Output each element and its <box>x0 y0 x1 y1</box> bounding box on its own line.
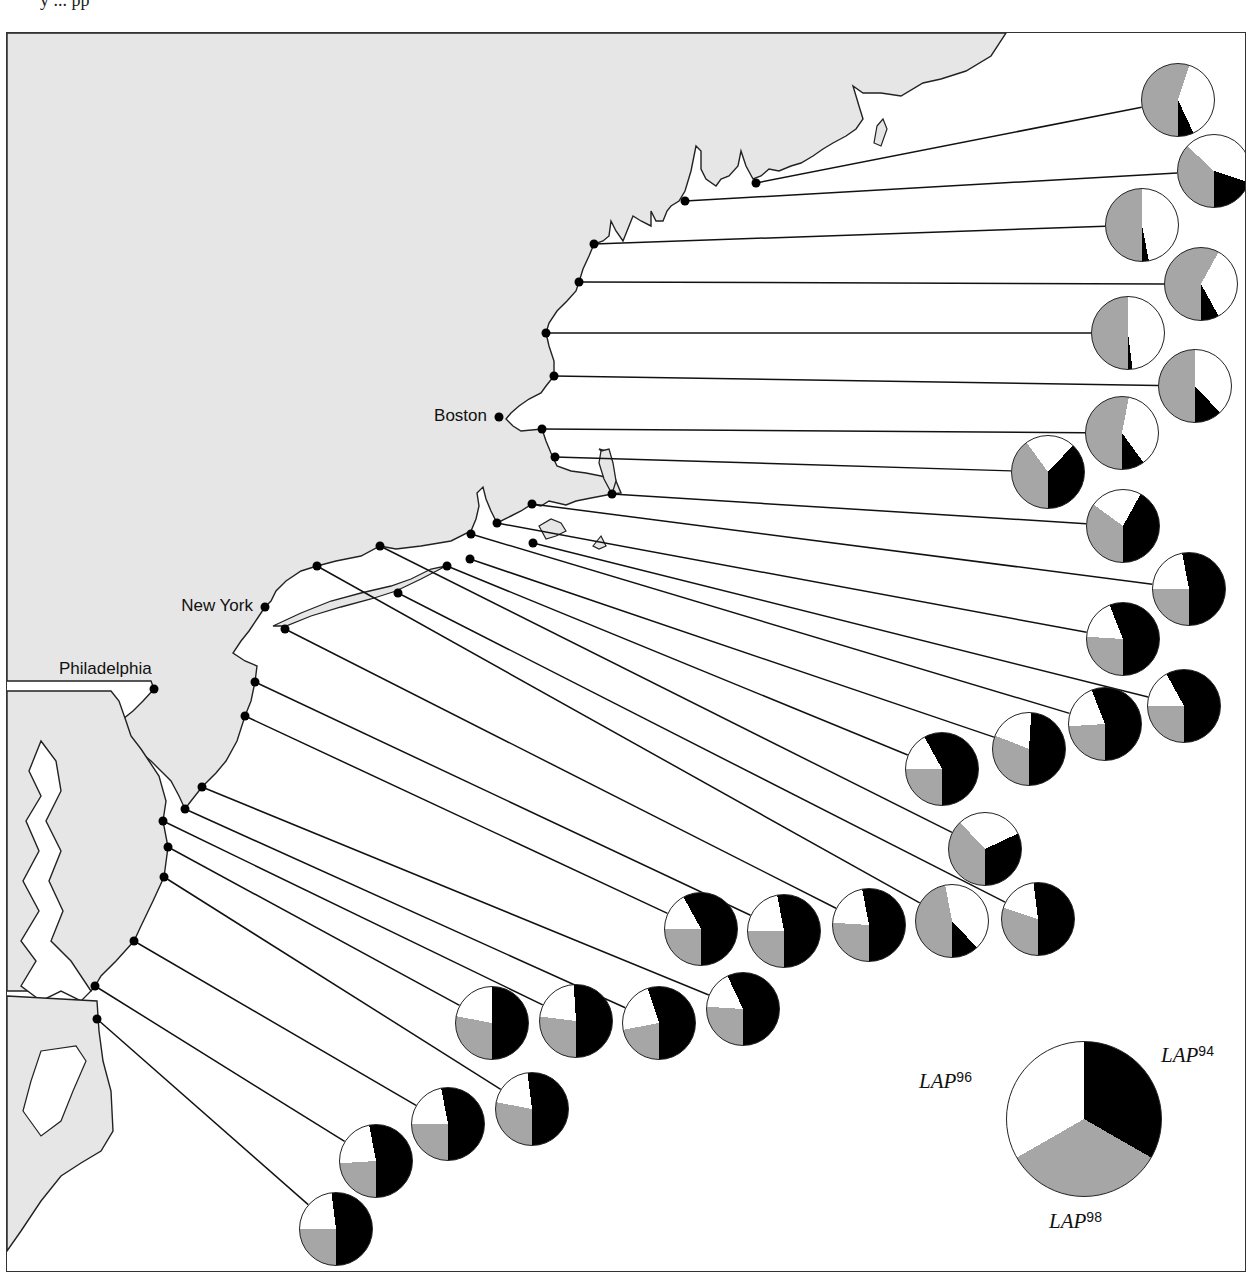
site-pie-chart <box>1068 687 1142 761</box>
leader-line <box>533 543 1148 697</box>
site-pie-chart <box>539 984 613 1058</box>
leader-line <box>255 682 751 915</box>
site-pie-chart <box>1141 63 1215 137</box>
leader-line <box>612 494 1086 524</box>
leader-line <box>579 282 1164 284</box>
sampling-site-dot <box>466 555 475 564</box>
site-pie-chart <box>1011 435 1085 509</box>
sampling-site-dot <box>241 712 250 721</box>
city-label-philadelphia: Philadelphia <box>59 659 152 679</box>
sampling-site-dot <box>281 625 290 634</box>
leader-line <box>95 986 345 1141</box>
leader-line <box>554 376 1158 385</box>
site-pie-chart <box>706 972 780 1046</box>
sampling-site-dot <box>529 539 538 548</box>
legend-pie <box>1006 1041 1162 1197</box>
city-dot <box>261 603 270 612</box>
site-pie-chart <box>1177 134 1246 208</box>
sampling-site-dot <box>550 372 559 381</box>
map-figure-frame: BostonNew YorkPhiladelphia LAP94 LAP96 L… <box>6 32 1246 1272</box>
leader-line <box>532 504 1152 584</box>
site-pie-chart <box>1105 188 1179 262</box>
leader-line <box>471 534 1070 713</box>
site-pie-chart <box>915 884 989 958</box>
sampling-site-dot <box>528 500 537 509</box>
sampling-site-dot <box>493 519 502 528</box>
site-pie-chart <box>1158 349 1232 423</box>
site-pie-chart <box>948 812 1022 886</box>
sampling-site-dot <box>251 678 260 687</box>
sampling-site-dot <box>394 589 403 598</box>
city-label-new-york: New York <box>181 596 253 616</box>
sampling-site-dot <box>198 783 207 792</box>
site-pie-chart <box>1086 489 1160 563</box>
leader-line <box>97 1019 308 1205</box>
site-pie-chart <box>339 1124 413 1198</box>
site-pie-chart <box>455 986 529 1060</box>
leader-line <box>470 559 994 737</box>
marthas-vineyard <box>539 519 566 539</box>
city-dot <box>495 413 504 422</box>
sampling-site-dot <box>130 937 139 946</box>
legend-label-lap94: LAP94 <box>1161 1043 1214 1068</box>
sampling-site-dot <box>159 817 168 826</box>
sampling-site-dot <box>313 562 322 571</box>
sampling-site-dot <box>160 873 169 882</box>
site-pie-chart <box>905 732 979 806</box>
sampling-site-dot <box>443 562 452 571</box>
site-pie-chart <box>832 888 906 962</box>
land-mainland <box>7 33 1006 809</box>
site-pie-chart <box>992 712 1066 786</box>
site-pie-chart <box>495 1072 569 1146</box>
site-pie-chart <box>299 1192 373 1266</box>
city-dot <box>150 685 159 694</box>
city-label-boston: Boston <box>434 406 487 426</box>
sampling-site-dot <box>164 843 173 852</box>
site-pie-chart <box>411 1087 485 1161</box>
legend-label-lap98: LAP98 <box>1049 1209 1102 1234</box>
site-pie-chart <box>1164 247 1238 321</box>
leader-line <box>380 546 952 832</box>
site-pie-chart <box>1152 552 1226 626</box>
sampling-site-dot <box>551 453 560 462</box>
site-pie-chart <box>747 894 821 968</box>
leader-line <box>168 847 459 1005</box>
site-pie-chart <box>664 892 738 966</box>
sampling-site-dot <box>467 530 476 539</box>
leader-line <box>594 226 1105 244</box>
maine-island <box>874 119 887 146</box>
site-pie-chart <box>622 986 696 1060</box>
leader-line <box>285 629 836 908</box>
long-island <box>273 566 446 626</box>
sampling-site-dot <box>181 805 190 814</box>
sampling-site-dot <box>542 329 551 338</box>
legend-label-lap96: LAP96 <box>919 1069 972 1094</box>
sampling-site-dot <box>575 278 584 287</box>
leader-line <box>185 809 625 1008</box>
sampling-site-dot <box>376 542 385 551</box>
sampling-site-dot <box>752 179 761 188</box>
site-pie-chart <box>1085 396 1159 470</box>
cropped-caption-text: y ... pp <box>40 0 90 11</box>
leader-line <box>497 523 1087 632</box>
sampling-site-dot <box>590 240 599 249</box>
site-pie-chart <box>1086 602 1160 676</box>
sampling-site-dot <box>93 1015 102 1024</box>
sampling-site-dot <box>91 982 100 991</box>
site-pie-chart <box>1091 296 1165 370</box>
leader-line <box>245 716 667 913</box>
leader-line <box>542 429 1085 433</box>
leader-line <box>447 566 908 755</box>
sampling-site-dot <box>608 490 617 499</box>
leader-line <box>555 457 1011 471</box>
sampling-site-dot <box>538 425 547 434</box>
site-pie-chart <box>1147 669 1221 743</box>
leader-line <box>202 787 709 995</box>
sampling-site-dot <box>681 197 690 206</box>
site-pie-chart <box>1001 882 1075 956</box>
leader-line <box>134 941 416 1105</box>
land-north-carolina <box>7 996 113 1251</box>
